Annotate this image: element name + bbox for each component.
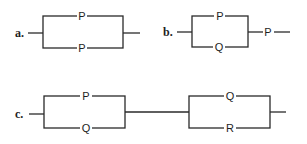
circuit-b-series-switch: P	[264, 26, 271, 38]
circuit-c: c. P Q Q R	[15, 90, 286, 134]
circuit-a: a. P P	[15, 10, 140, 54]
switching-circuits-diagram: a. P P b. P Q P c. P Q Q R	[0, 0, 307, 144]
circuit-a-switch-bottom: P	[78, 42, 85, 54]
circuit-c-block2-switch-bottom: R	[226, 122, 234, 134]
circuit-a-label: a.	[15, 26, 24, 40]
circuit-c-block1-switch-bottom: Q	[82, 122, 91, 134]
circuit-a-switch-top: P	[78, 10, 85, 22]
circuit-b-switch-top: P	[216, 10, 223, 22]
circuit-c-block1-switch-top: P	[82, 90, 89, 102]
circuit-c-block2-switch-top: Q	[226, 90, 235, 102]
circuit-b-switch-bottom: Q	[215, 41, 224, 53]
circuit-b-label: b.	[163, 25, 173, 39]
circuit-c-label: c.	[15, 107, 23, 121]
circuit-b: b. P Q P	[163, 10, 290, 53]
